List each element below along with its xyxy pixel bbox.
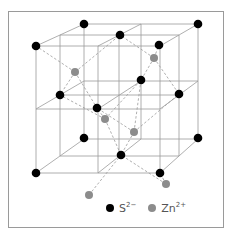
legend-item-zinc: Zn2+ [148,201,186,215]
bond-line [134,80,141,132]
sulfide-ion [32,42,41,51]
zinc-swatch-icon [148,204,156,212]
bond-line [75,72,97,108]
sulfide-ion [194,134,203,143]
bond-line [36,46,75,72]
sulfide-ion [32,169,41,178]
sulfide-ion [137,76,146,85]
zinc-ion [162,180,170,188]
sulfide-ion [80,20,89,29]
sulfide-ion [156,169,165,178]
zinc-ion [150,54,158,62]
sulfide-swatch-icon [106,204,114,212]
bond-line [120,35,154,58]
sulfide-ion [117,151,126,160]
bond-line [89,155,121,195]
legend-label-zinc: Zn2+ [161,201,186,215]
sulfide-ion [155,41,164,50]
bond-line [105,80,141,119]
sulfide-ion [116,31,125,40]
zinc-ion [85,191,93,199]
bond-line [154,58,179,94]
sulfide-ion [93,104,102,113]
zinc-ion [101,115,109,123]
sulfide-ion [56,91,65,100]
sulfide-ion [194,20,203,29]
sulfide-ion [175,90,184,99]
zinc-ion [71,68,79,76]
sulfide-ion [80,134,89,143]
legend-label-sulfide: S2− [119,201,136,215]
legend: S2− Zn2+ [106,201,198,215]
bond-line [75,35,120,72]
zinc-ion [130,128,138,136]
legend-item-sulfide: S2− [106,201,136,215]
